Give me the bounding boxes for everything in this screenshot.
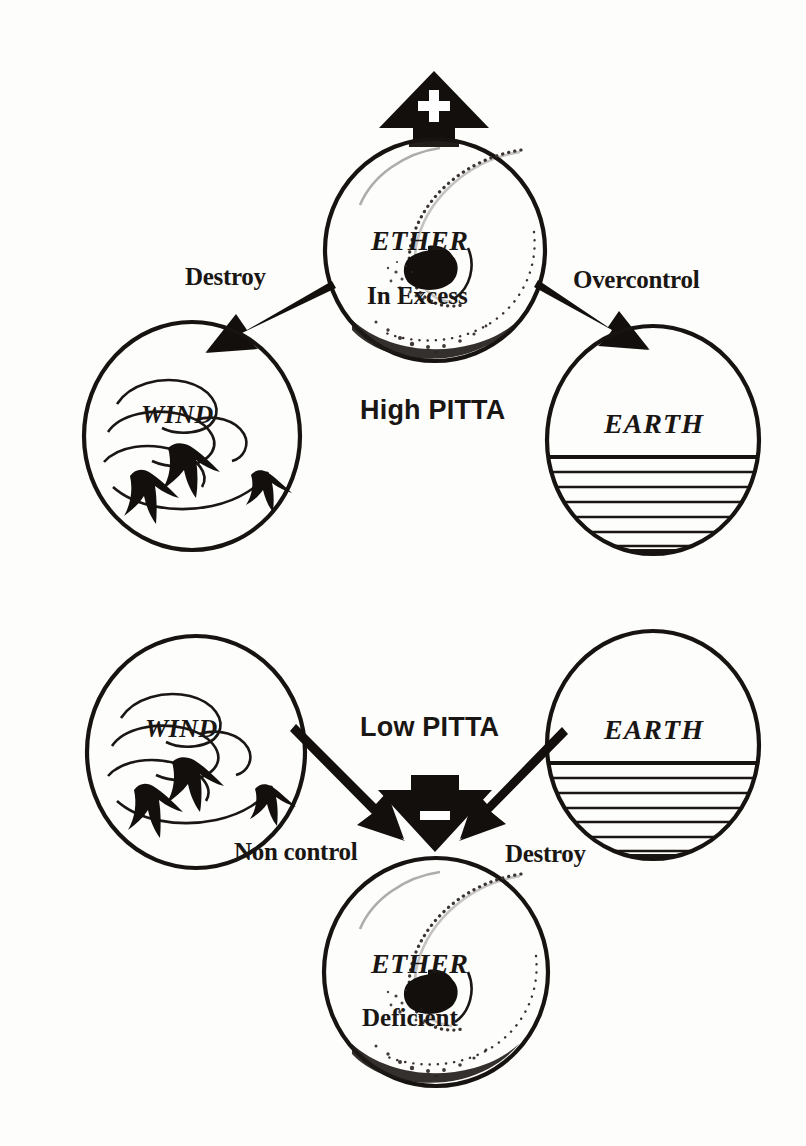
label-overcontrol-top: Overcontrol — [573, 266, 699, 294]
label-ether-top-state: In Excess — [367, 282, 468, 310]
label-ether-top-name: ETHER — [371, 225, 468, 257]
label-low-pitta: Low PITTA — [360, 712, 499, 743]
circle-wind-bottom — [87, 636, 305, 868]
circle-earth-top — [540, 326, 766, 554]
label-earth-bottom: EARTH — [604, 714, 704, 746]
label-non-control-bottom: Non control — [234, 838, 357, 866]
up-arrow-plus-icon — [379, 71, 489, 147]
label-wind-top: WIND — [141, 400, 214, 430]
label-earth-top: EARTH — [604, 408, 704, 440]
diagram-canvas: ETHER In Excess Destroy Overcontrol WIND… — [0, 0, 806, 1146]
label-destroy-bottom: Destroy — [505, 840, 586, 868]
label-ether-bottom-name: ETHER — [371, 948, 468, 980]
label-high-pitta: High PITTA — [360, 395, 505, 426]
label-destroy-top: Destroy — [185, 263, 266, 291]
label-ether-bottom-state: Deficient — [362, 1004, 458, 1032]
label-wind-bottom: WIND — [145, 714, 218, 744]
circle-wind-top — [84, 322, 300, 550]
arrow-destroy-top — [205, 281, 336, 353]
